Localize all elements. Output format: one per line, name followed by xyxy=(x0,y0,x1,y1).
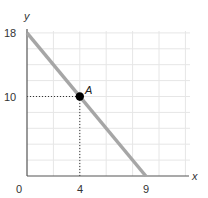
demand-line xyxy=(27,33,146,176)
y-axis-label: y xyxy=(23,10,31,22)
y-tick-10: 10 xyxy=(4,91,16,103)
point-a-marker xyxy=(76,92,84,100)
x-tick-9: 9 xyxy=(143,183,149,195)
y-tick-18: 18 xyxy=(4,27,16,39)
x-axis-label: x xyxy=(191,170,198,182)
grid-lines xyxy=(27,31,190,176)
point-a-label: A xyxy=(84,84,92,96)
x-tick-4: 4 xyxy=(77,183,83,195)
origin-label: 0 xyxy=(16,183,22,195)
chart: y x 18 10 0 4 9 A xyxy=(0,0,208,198)
